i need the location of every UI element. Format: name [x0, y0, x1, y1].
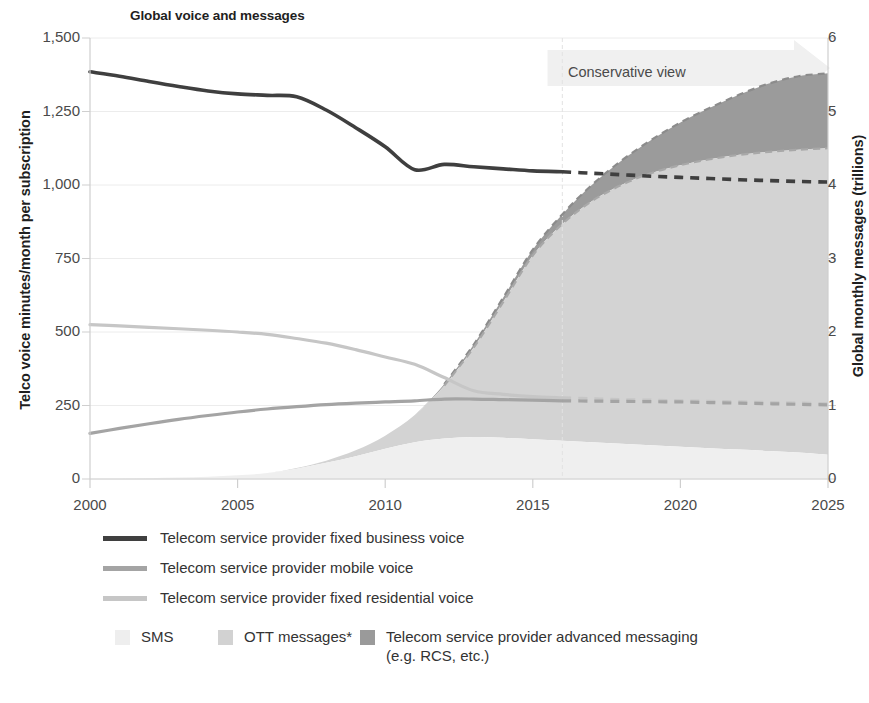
x-axis-tick: 2025: [788, 496, 868, 513]
x-axis-tick: 2020: [640, 496, 720, 513]
legend-area-swatch-icon: [115, 630, 130, 645]
x-axis-tick: 2000: [50, 496, 130, 513]
legend-line-swatch-icon: [103, 596, 147, 601]
conservative-view-label: Conservative view: [568, 64, 686, 80]
legend-line-swatch-icon: [103, 566, 147, 571]
legend-item-mobile-voice[interactable]: Telecom service provider mobile voice: [103, 555, 413, 581]
legend-label: Telecom service provider mobile voice: [160, 559, 413, 578]
legend-item-business-voice[interactable]: Telecom service provider fixed business …: [103, 525, 464, 551]
x-axis-tick: 2015: [493, 496, 573, 513]
legend-line-swatch-icon: [103, 536, 147, 541]
legend-label: SMS: [141, 628, 174, 645]
legend-item-residential-voice[interactable]: Telecom service provider fixed residenti…: [103, 585, 473, 611]
legend-item-advanced-messaging[interactable]: Telecom service provider advanced messag…: [360, 628, 698, 666]
legend-item-ott-messages[interactable]: OTT messages*: [218, 628, 352, 647]
x-axis-tick: 2005: [198, 496, 278, 513]
legend-label: Telecom service provider fixed business …: [160, 529, 464, 548]
chart-figure: Telco voice minutes/month per subscripti…: [0, 0, 869, 703]
legend-area-swatch-icon: [360, 630, 375, 645]
legend-label: Telecom service provider advanced messag…: [386, 628, 698, 645]
legend-label: Telecom service provider fixed residenti…: [160, 589, 473, 608]
x-axis-tick: 2010: [345, 496, 425, 513]
legend-item-sms[interactable]: SMS: [115, 628, 174, 647]
legend-label: OTT messages*: [244, 628, 352, 645]
legend-area-swatch-icon: [218, 630, 233, 645]
legend-sublabel: (e.g. RCS, etc.): [386, 647, 489, 664]
